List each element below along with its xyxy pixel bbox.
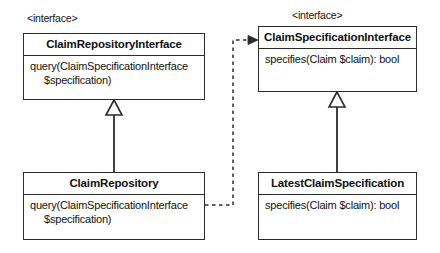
class-members-claim-repository: query(ClaimSpecificationInterface $speci…: [24, 195, 204, 230]
class-name-claim-repository-interface: ClaimRepositoryInterface: [24, 34, 204, 56]
member-line: specifies(Claim $claim): bool: [265, 53, 399, 65]
realization-repository: [106, 100, 122, 172]
class-claim-repository[interactable]: ClaimRepository query(ClaimSpecification…: [23, 172, 205, 240]
stereotype-claim-repository-interface: <interface>: [27, 12, 77, 24]
member-line: query(ClaimSpecificationInterface: [30, 60, 188, 72]
class-name-claim-specification-interface: ClaimSpecificationInterface: [259, 27, 416, 49]
member-line-continuation: $specification): [30, 74, 199, 88]
stereotype-claim-specification-interface: <interface>: [292, 9, 342, 21]
class-claim-repository-interface[interactable]: ClaimRepositoryInterface query(ClaimSpec…: [23, 33, 205, 100]
uml-class-diagram: <interface> ClaimRepositoryInterface que…: [0, 0, 440, 253]
dependency-repository-to-specification: [205, 36, 258, 206]
member-line: specifies(Claim $claim): bool: [265, 199, 399, 211]
class-claim-specification-interface[interactable]: ClaimSpecificationInterface specifies(Cl…: [258, 26, 417, 92]
class-name-claim-repository: ClaimRepository: [24, 173, 204, 195]
member-line: query(ClaimSpecificationInterface: [30, 199, 188, 211]
class-members-latest-claim-specification: specifies(Claim $claim): bool: [259, 195, 416, 217]
realization-specification: [329, 92, 345, 172]
class-latest-claim-specification[interactable]: LatestClaimSpecification specifies(Claim…: [258, 172, 417, 240]
class-members-claim-repository-interface: query(ClaimSpecificationInterface $speci…: [24, 56, 204, 91]
member-line-continuation: $specification): [30, 213, 199, 227]
class-members-claim-specification-interface: specifies(Claim $claim): bool: [259, 49, 416, 71]
class-name-latest-claim-specification: LatestClaimSpecification: [259, 173, 416, 195]
